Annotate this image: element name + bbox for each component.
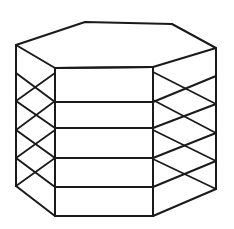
shelf-2-right-back-edge	[153, 72, 216, 104]
shelf-level-5	[16, 158, 216, 189]
shelf-level-6-bottom	[16, 186, 216, 216]
figure-canvas	[0, 0, 234, 229]
shelf-level-2	[16, 72, 216, 104]
shelf-3-right-back-edge	[153, 100, 216, 133]
shelf-level-1	[55, 67, 153, 68]
shelf-6-right-wing	[153, 189, 216, 216]
shelf-level-3	[16, 100, 216, 133]
top-hexagon-shelf	[16, 22, 216, 68]
shelf-4-right-back-edge	[153, 130, 216, 161]
shelf-5-right-back-edge	[153, 159, 216, 189]
vertical-posts	[16, 45, 216, 216]
shelf-2-right-wing	[153, 76, 216, 102]
shelf-6-left-wing	[16, 186, 55, 216]
hexagonal-shelf-drawing	[0, 0, 234, 229]
top-hexagon-face	[16, 22, 216, 68]
shelf-level-4	[16, 130, 216, 161]
shelf-1-front-edge	[55, 67, 153, 68]
